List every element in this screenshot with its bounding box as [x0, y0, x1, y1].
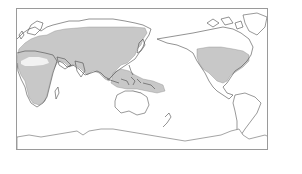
coastline-south-america: [233, 93, 261, 135]
coastline-australia: [115, 91, 149, 115]
coastline-scandinavia: [27, 21, 43, 35]
range-southeast-asia-pacific: [111, 69, 165, 93]
range-north-america: [197, 47, 249, 83]
map-frame: [16, 8, 268, 150]
world-map: [17, 9, 268, 150]
coastline-madagascar: [55, 87, 59, 99]
coastline-greenland: [243, 13, 267, 35]
coastline-british-isles: [19, 31, 24, 39]
coastline-antarctica: [17, 129, 268, 150]
coastline-new-zealand: [163, 113, 171, 127]
